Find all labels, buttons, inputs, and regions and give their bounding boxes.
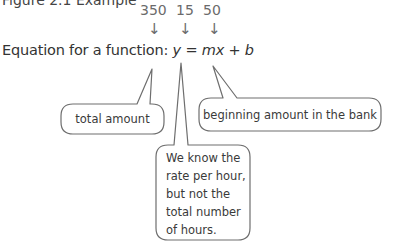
callout-text-y: total amount (61, 104, 164, 134)
callout-text-b: beginning amount in the bank (199, 98, 381, 131)
callout-line: rate per hour, (166, 167, 250, 185)
callout-line: of hours. (166, 221, 250, 239)
callout-line: We know the (166, 149, 250, 167)
callout-line: total number (166, 203, 250, 221)
callout-line: but not the (166, 185, 250, 203)
callout-text-mx: We know the rate per hour, but not the t… (166, 149, 250, 239)
